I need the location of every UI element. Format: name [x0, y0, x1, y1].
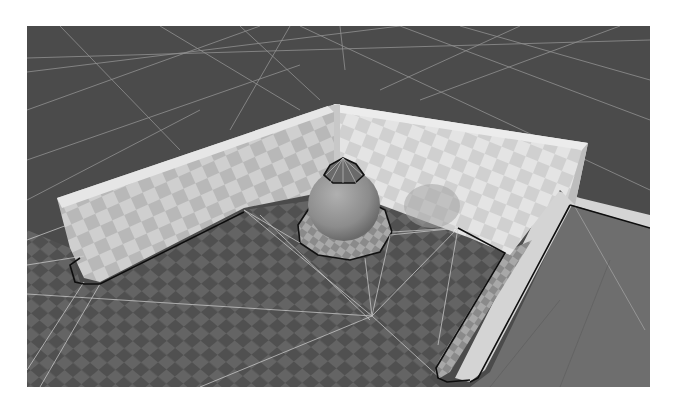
- navmesh-scene: [27, 26, 650, 387]
- render-viewport: [27, 26, 650, 387]
